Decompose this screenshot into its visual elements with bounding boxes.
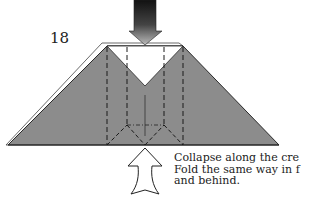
instruction-text: Collapse along the cre Fold the same way… xyxy=(174,152,316,187)
push-up-arrow-icon xyxy=(128,148,162,194)
instruction-line-1: Collapse along the cre xyxy=(174,152,316,164)
push-down-arrow-icon xyxy=(129,0,162,45)
step-number: 18 xyxy=(50,29,69,47)
instruction-line-3: and behind. xyxy=(174,175,316,187)
